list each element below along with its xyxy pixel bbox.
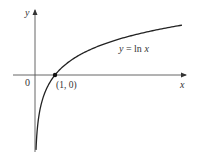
curve-label: y = ln x (118, 43, 149, 54)
point-label: (1, 0) (56, 80, 77, 91)
curve-label-x: x (143, 43, 149, 54)
point-marker (53, 73, 57, 77)
y-axis-label: y (24, 7, 30, 18)
curve-label-eq: = ln (123, 43, 144, 54)
origin-label: 0 (25, 77, 30, 88)
chart: y x 0 (1, 0) y = ln x (0, 0, 201, 159)
x-axis-label: x (179, 79, 185, 90)
